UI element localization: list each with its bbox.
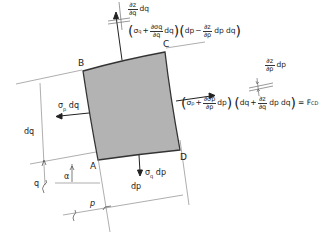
top-dz-label: ∂z ∂q dq [128,2,149,16]
top-force-expression: ( σq + ∂σq ∂q dq ) ( dp − ∂z ∂p dp dq ) [128,24,241,38]
top-dz-fraction: ∂z ∂q [128,2,138,16]
dim-q-label: q [34,180,39,188]
element-abcd [83,52,180,160]
dim-dq-label: dq [24,128,34,136]
dim-dp-label: dp [131,183,141,191]
point-a-label: A [90,162,96,171]
right-force-fraction-2: ∂z ∂q [258,96,268,110]
right-dz-fraction: ∂z ∂p [265,58,275,72]
dim-p-label: p [90,200,95,208]
point-b-label: B [78,59,84,68]
left-force-label: σp dq [58,102,79,112]
bottom-force-label: σq dp [145,169,166,179]
right-dz-label: ∂z ∂p dp [265,58,286,72]
angle-alpha-label: α [64,173,69,181]
top-force-fraction-2: ∂z ∂p [203,24,213,38]
top-force-fraction: ∂σq ∂q [150,24,164,38]
right-force-expression: ( σp + ∂σp ∂p dp ) ( dq + ∂z ∂q dp dq ) … [181,96,318,110]
point-d-label: D [180,153,187,162]
point-c-label: C [163,40,169,49]
right-force-fraction: ∂σp ∂p [203,96,217,110]
